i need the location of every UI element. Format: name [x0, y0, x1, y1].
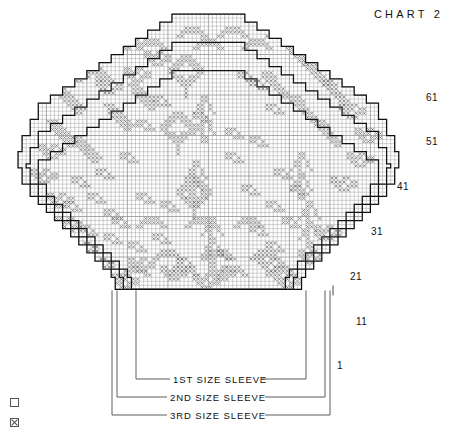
page-title: CHART 2	[374, 8, 443, 20]
size-label-2: 2ND SIZE SLEEVE	[170, 392, 266, 403]
empty-square-icon	[10, 398, 19, 407]
row-label-1: 1	[337, 360, 343, 371]
row-label-51: 51	[426, 136, 438, 147]
row-label-41: 41	[397, 181, 409, 192]
bracket-2-right	[265, 290, 325, 397]
size-label-1: 1ST SIZE SLEEVE	[173, 374, 267, 385]
size-label-3: 3RD SIZE SLEEVE	[170, 410, 266, 421]
bracket-1-right	[262, 290, 306, 379]
bracket-1-left	[136, 290, 170, 379]
chart-canvas: CHART 2 6151413121111 1ST SIZE SLEEVE2ND…	[0, 0, 451, 445]
bracket-3-left	[112, 290, 167, 415]
bracket-3-right	[265, 290, 330, 415]
bracket-2-left	[117, 290, 167, 397]
legend-item-b: B	[10, 418, 17, 428]
row-label-31: 31	[371, 226, 383, 237]
row-label-11: 11	[356, 316, 367, 327]
cross-square-icon	[10, 418, 19, 427]
row-label-21: 21	[350, 271, 362, 282]
stitch-grid	[18, 14, 399, 289]
legend-item-a: A	[10, 398, 17, 408]
row-label-61: 61	[426, 92, 438, 103]
